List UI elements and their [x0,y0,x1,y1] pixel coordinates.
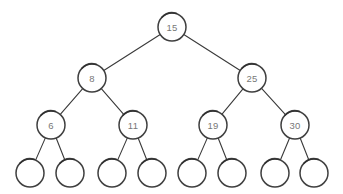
node-layer: 158256111930 [16,13,328,187]
node-label: 8 [89,73,94,84]
tree-node: 30 [281,111,309,139]
tree-edge [222,88,244,114]
tree-edge [101,88,124,115]
tree-edge [280,137,290,160]
tree-node: 8 [78,64,106,92]
tree-edge [117,137,127,160]
tree-edge [261,88,286,115]
node-label: 6 [48,120,53,131]
tree-node: 25 [238,64,266,92]
node-label: 19 [208,120,219,131]
edge-layer [35,34,309,160]
tree-leaf-node [261,159,289,187]
tree-edge [197,137,207,160]
tree-node: 11 [119,111,147,139]
tree-edge [218,138,227,161]
tree-node: 19 [199,111,227,139]
node-label: 11 [128,120,138,131]
tree-edge [138,138,147,161]
tree-leaf-node [56,159,84,187]
tree-leaf-node [300,159,328,187]
node-label: 30 [290,120,301,131]
binary-tree-diagram: 158256111930 [0,0,343,194]
tree-edge [183,34,240,70]
tree-edge [56,138,65,161]
tree-canvas: 158256111930 [0,0,343,194]
tree-leaf-node [98,159,126,187]
node-label: 15 [167,22,178,33]
tree-leaf-node [138,159,166,187]
tree-leaf-node [218,159,246,187]
tree-edge [60,88,83,115]
node-label: 25 [247,73,258,84]
tree-edge [103,34,160,70]
tree-node: 6 [37,111,65,139]
tree-node: 15 [158,13,186,41]
tree-leaf-node [16,159,44,187]
tree-edge [300,138,309,161]
tree-edge [35,137,45,160]
tree-leaf-node [178,159,206,187]
